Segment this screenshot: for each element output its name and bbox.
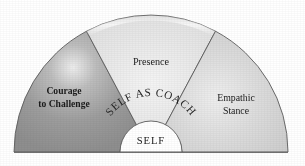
label-courage-line1: Courage [46,85,82,96]
label-self-core: SELF [137,135,165,146]
label-empathic-line1: Empathic [217,92,255,103]
label-presence: Presence [133,56,170,67]
label-courage-line2: to Challenge [38,98,90,109]
label-empathic-line2: Stance [223,105,250,116]
diagram-canvas: Courage to Challenge Presence Empathic S… [0,0,305,166]
self-as-coach-diagram: Courage to Challenge Presence Empathic S… [0,0,305,166]
